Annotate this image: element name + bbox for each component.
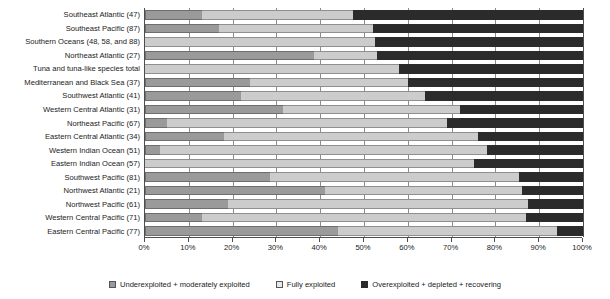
stacked-bar [145, 132, 583, 142]
legend-label: Fully exploited [287, 280, 336, 289]
plot-area: Southeast Atlantic (47)Southeast Pacific… [144, 8, 582, 238]
stacked-bar [145, 213, 583, 223]
stacked-bar [145, 24, 583, 34]
segment-underexploited [145, 132, 224, 142]
bar-row: Southwest Pacific (81) [145, 172, 582, 182]
segment-fully-exploited [228, 199, 528, 209]
bar-row: Mediterranean and Black Sea (37) [145, 78, 582, 88]
x-tick [144, 238, 145, 242]
segment-overexploited [373, 24, 583, 34]
bar-row: Northeast Atlantic (27) [145, 51, 582, 61]
category-label: Southwest Pacific (81) [5, 173, 145, 182]
segment-fully-exploited [145, 159, 474, 169]
bar-row: Southeast Pacific (87) [145, 24, 582, 34]
segment-underexploited [145, 186, 325, 196]
segment-underexploited [145, 213, 202, 223]
stacked-bar [145, 226, 583, 236]
x-tick [275, 238, 276, 242]
segment-fully-exploited [224, 132, 478, 142]
legend-item-underexploited[interactable]: Underexploited + moderately exploited [109, 280, 250, 289]
segment-overexploited [519, 172, 583, 182]
segment-fully-exploited [338, 226, 557, 236]
x-tick [407, 238, 408, 242]
x-tick-label: 70% [443, 243, 458, 252]
bar-row: Northwest Atlantic (21) [145, 186, 582, 196]
x-tick [188, 238, 189, 242]
chart-legend: Underexploited + moderately exploitedFul… [0, 277, 610, 291]
legend-item-overexploited[interactable]: Overexploited + depleted + recovering [361, 280, 501, 289]
segment-overexploited [447, 118, 583, 128]
x-tick [582, 238, 583, 242]
gridline [583, 8, 584, 237]
category-label: Northwest Atlantic (21) [5, 186, 145, 195]
bar-row: Southern Oceans (48, 58, and 88) [145, 37, 582, 47]
stacked-bar [145, 91, 583, 101]
stacked-bar [145, 78, 583, 88]
segment-fully-exploited [270, 172, 520, 182]
bar-row: Northwest Pacific (61) [145, 199, 582, 209]
legend-swatch-icon [109, 281, 116, 288]
category-label: Western Central Pacific (71) [5, 213, 145, 222]
segment-overexploited [474, 159, 584, 169]
bar-rows: Southeast Atlantic (47)Southeast Pacific… [145, 8, 582, 237]
legend-swatch-icon [276, 281, 283, 288]
segment-overexploited [478, 132, 583, 142]
segment-underexploited [145, 91, 241, 101]
segment-underexploited [145, 78, 250, 88]
segment-underexploited [145, 199, 228, 209]
bar-row: Tuna and tuna-like species total [145, 64, 582, 74]
segment-overexploited [377, 51, 583, 61]
legend-swatch-icon [361, 281, 368, 288]
segment-fully-exploited [283, 105, 460, 115]
x-tick [232, 238, 233, 242]
stacked-bar-chart: Southeast Atlantic (47)Southeast Pacific… [0, 0, 610, 299]
x-tick-label: 40% [312, 243, 327, 252]
segment-underexploited [145, 24, 219, 34]
segment-fully-exploited [314, 51, 378, 61]
stacked-bar [145, 159, 583, 169]
segment-fully-exploited [250, 78, 408, 88]
bar-row: Western Indian Ocean (51) [145, 145, 582, 155]
stacked-bar [145, 51, 583, 61]
x-tick-label: 50% [355, 243, 370, 252]
legend-label: Overexploited + depleted + recovering [372, 280, 501, 289]
segment-underexploited [145, 10, 202, 20]
stacked-bar [145, 145, 583, 155]
stacked-bar [145, 37, 583, 47]
category-label: Eastern Indian Ocean (57) [5, 159, 145, 168]
legend-item-fully-exploited[interactable]: Fully exploited [276, 280, 336, 289]
segment-fully-exploited [325, 186, 522, 196]
x-tick-label: 10% [180, 243, 195, 252]
segment-overexploited [526, 213, 583, 223]
bar-row: Southeast Atlantic (47) [145, 10, 582, 20]
x-tick [451, 238, 452, 242]
stacked-bar [145, 105, 583, 115]
segment-overexploited [460, 105, 583, 115]
segment-overexploited [375, 37, 583, 47]
stacked-bar [145, 10, 583, 20]
segment-fully-exploited [167, 118, 447, 128]
x-axis: 0%10%20%30%40%50%60%70%80%90%100% [144, 238, 582, 256]
category-label: Southern Oceans (48, 58, and 88) [5, 37, 145, 46]
stacked-bar [145, 64, 583, 74]
segment-fully-exploited [202, 10, 353, 20]
x-tick-label: 60% [399, 243, 414, 252]
legend-label: Underexploited + moderately exploited [120, 280, 250, 289]
category-label: Western Indian Ocean (51) [5, 146, 145, 155]
segment-fully-exploited [145, 37, 375, 47]
stacked-bar [145, 186, 583, 196]
stacked-bar [145, 172, 583, 182]
category-label: Tuna and tuna-like species total [5, 64, 145, 73]
segment-overexploited [425, 91, 583, 101]
segment-overexploited [522, 186, 583, 196]
segment-overexploited [557, 226, 583, 236]
segment-overexploited [353, 10, 583, 20]
bar-row: Western Central Pacific (71) [145, 213, 582, 223]
bar-row: Eastern Central Atlantic (34) [145, 132, 582, 142]
segment-underexploited [145, 145, 160, 155]
x-tick [494, 238, 495, 242]
category-label: Northwest Pacific (61) [5, 200, 145, 209]
bar-row: Eastern Indian Ocean (57) [145, 159, 582, 169]
category-label: Eastern Central Pacific (77) [5, 227, 145, 236]
category-label: Western Central Atlantic (31) [5, 105, 145, 114]
